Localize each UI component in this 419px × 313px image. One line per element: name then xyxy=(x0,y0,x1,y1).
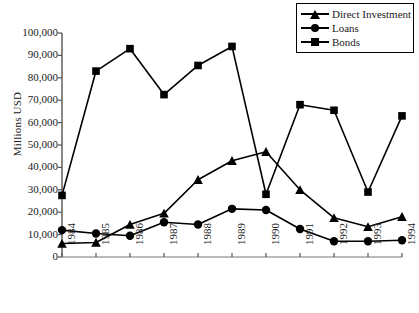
legend-marker-glyph xyxy=(311,38,319,46)
chart-legend: Direct InvestmentLoansBonds xyxy=(296,3,414,53)
legend-marker-circle-icon xyxy=(300,21,330,35)
legend-item[interactable]: Bonds xyxy=(300,35,409,49)
legend-item[interactable]: Direct Investment xyxy=(300,7,409,21)
x-tick-label: 1988 xyxy=(202,223,213,263)
x-tick-label: 1984 xyxy=(66,223,77,263)
legend-marker-triangle-icon xyxy=(300,7,330,21)
x-tick-label: 1992 xyxy=(338,223,349,263)
x-tick-label: 1991 xyxy=(304,223,315,263)
x-tick-label: 1993 xyxy=(372,223,383,263)
x-tick-label: 1994 xyxy=(406,223,417,263)
x-tick-label: 1985 xyxy=(100,223,111,263)
chart-container: Millions USD 010,00020,00030,00040,00050… xyxy=(0,0,419,313)
legend-item-label: Direct Investment xyxy=(330,8,411,20)
legend-marker-square-icon xyxy=(300,35,330,49)
legend-marker-glyph xyxy=(311,24,319,32)
x-tick-label: 1987 xyxy=(168,223,179,263)
x-tick-label: 1990 xyxy=(270,223,281,263)
legend-item-label: Loans xyxy=(330,22,359,34)
legend-item-label: Bonds xyxy=(330,36,360,48)
legend-item[interactable]: Loans xyxy=(300,21,409,35)
x-tick-label: 1989 xyxy=(236,223,247,263)
legend-marker-glyph xyxy=(310,10,320,19)
x-tick-label: 1986 xyxy=(134,223,145,263)
